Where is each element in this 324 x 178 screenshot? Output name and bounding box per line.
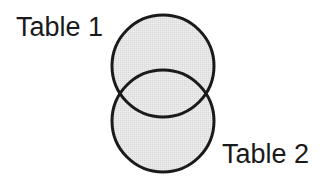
venn-diagram: Table 1 Table 2 [0,0,324,178]
table-2-label: Table 2 [222,141,309,168]
table-1-label: Table 1 [16,14,103,41]
